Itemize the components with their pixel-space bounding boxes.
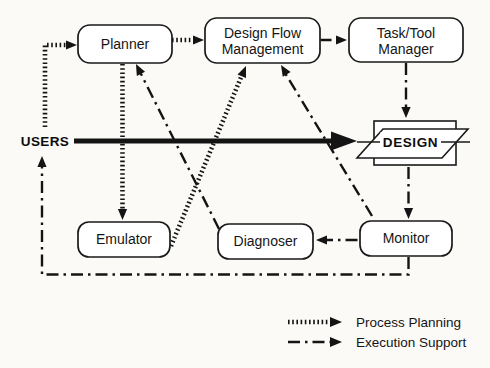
edge-tasktool-to-design	[401, 63, 410, 118]
arrowhead-icon	[331, 132, 357, 151]
edge-monitor-to-diagnoser	[316, 235, 358, 244]
tasktool-label-line2: Manager	[378, 41, 434, 57]
flow-diagram: Planner Design Flow Management Task/Tool…	[0, 0, 490, 368]
planner-label: Planner	[101, 36, 150, 52]
users-label: USERS	[21, 134, 70, 149]
arrowhead-icon	[238, 64, 251, 78]
arrowhead-icon	[404, 208, 413, 219]
edge-users-to-design	[74, 132, 357, 151]
arrowhead-icon	[132, 62, 145, 76]
edge-dfm-to-tasktool	[321, 35, 348, 44]
legend-process-planning: Process Planning	[288, 315, 461, 330]
diagnoser-label: Diagnoser	[234, 233, 298, 249]
dfm-label-line1: Design Flow	[224, 25, 302, 41]
design-label: DESIGN	[383, 135, 438, 150]
arrowhead-icon	[277, 63, 291, 77]
arrowhead-icon	[66, 40, 77, 49]
edge-users-to-planner	[45, 40, 77, 127]
tasktool-label-line1: Task/Tool	[377, 25, 435, 41]
diagram-canvas: Planner Design Flow Management Task/Tool…	[0, 0, 490, 368]
edge-design-to-monitor	[404, 167, 413, 219]
legend-execution-support-label: Execution Support	[356, 335, 467, 350]
arrowhead-icon	[401, 107, 410, 118]
process-planning-arrow-icon	[330, 317, 342, 327]
arrowhead-icon	[193, 35, 204, 44]
arrowhead-icon	[118, 209, 127, 220]
monitor-label: Monitor	[383, 230, 430, 246]
node-monitor: Monitor	[360, 221, 452, 256]
dfm-label-line2: Management	[222, 41, 304, 57]
node-design: DESIGN	[357, 121, 470, 165]
edge-planner-to-dfm	[172, 35, 204, 44]
legend: Process Planning Execution Support	[288, 315, 467, 350]
legend-execution-support: Execution Support	[288, 335, 467, 350]
node-planner: Planner	[78, 25, 172, 63]
node-emulator: Emulator	[78, 222, 170, 257]
arrowhead-icon	[336, 35, 347, 44]
arrowhead-icon	[316, 235, 327, 244]
legend-process-planning-label: Process Planning	[356, 315, 461, 330]
node-diagnoser: Diagnoser	[218, 224, 313, 259]
node-design-flow-management: Design Flow Management	[205, 18, 320, 63]
emulator-label: Emulator	[96, 231, 152, 247]
node-task-tool-manager: Task/Tool Manager	[349, 18, 463, 62]
arrowhead-icon	[37, 156, 46, 167]
execution-support-arrow-icon	[330, 337, 342, 347]
edge-diagnoser-to-planner	[132, 62, 219, 229]
